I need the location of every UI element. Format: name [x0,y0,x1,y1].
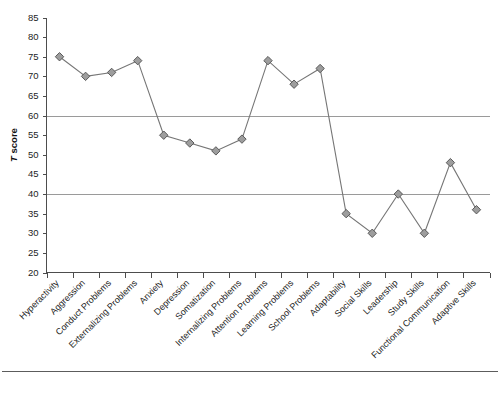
y-tick-label: 30 [28,227,39,238]
y-tick-label: 80 [28,31,39,42]
t-score-line-chart: 2025303540455055606570758085 Hyperactivi… [0,0,500,399]
y-tick-label: 20 [28,267,39,278]
y-tick-label: 55 [28,129,39,140]
y-tick-label: 85 [28,12,39,23]
y-tick-label: 75 [28,51,39,62]
y-tick-label: 25 [28,247,39,258]
y-tick-label: 60 [28,110,39,121]
y-tick-label: 65 [28,90,39,101]
y-axis-title: T score [8,128,19,162]
y-tick-label: 40 [28,188,39,199]
y-tick-label: 50 [28,149,39,160]
y-tick-label: 35 [28,208,39,219]
chart-figure: 2025303540455055606570758085 Hyperactivi… [0,0,500,399]
y-tick-label: 45 [28,168,39,179]
y-tick-label: 70 [28,70,39,81]
